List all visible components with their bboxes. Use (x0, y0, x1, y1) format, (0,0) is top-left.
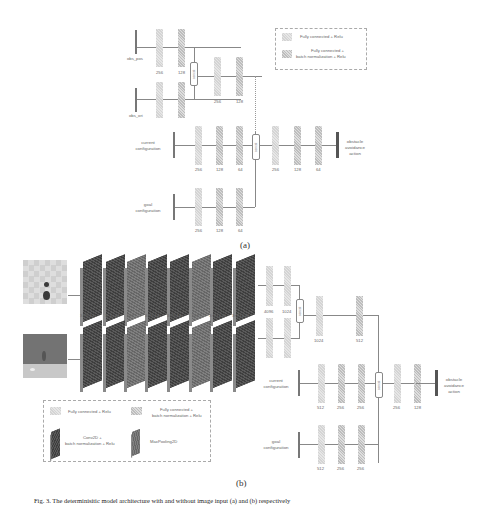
fc-layer (195, 126, 202, 165)
fc-bn-layer (338, 364, 345, 403)
conv-label: 3×3×128 (232, 314, 249, 319)
fc-bn-layer (178, 29, 185, 67)
fc-layer (316, 296, 323, 336)
concat-block-b2: concat (375, 372, 383, 398)
units-label: 128 (294, 168, 301, 173)
output-label-a2: avoidance (342, 145, 368, 150)
units-label: 64 (238, 229, 243, 234)
units-label: 128 (216, 229, 223, 234)
conv-label: 2×2 (192, 314, 199, 319)
current-config-label-b1: current (258, 378, 294, 383)
fc-bn-layer (236, 188, 243, 226)
output-label-b2: avoidance (440, 383, 468, 388)
connector (258, 285, 300, 286)
connector (175, 207, 255, 208)
fc-bn-layer (216, 188, 223, 226)
connector (258, 338, 300, 339)
units-label: 256 (357, 467, 364, 472)
fc-layer (156, 29, 163, 67)
conv-layer (167, 328, 191, 392)
connector (416, 383, 435, 384)
fc-layer (214, 57, 221, 96)
output-bar-a (336, 132, 339, 158)
fc-layer (266, 266, 273, 306)
units-label: 256 (337, 406, 344, 411)
fc-layer (284, 266, 291, 306)
units-label: 128 (216, 168, 223, 173)
obs-ori-input-bar (135, 88, 137, 112)
connector (137, 47, 241, 48)
conv-label: 3×3×32 (105, 314, 119, 319)
fc-bn-layer (294, 126, 301, 165)
conv-label: 3×3×128 (209, 314, 226, 319)
conv-layer (145, 328, 169, 392)
connector (255, 76, 256, 132)
conv-label: 3×3×64 (145, 314, 159, 319)
conv-layer (210, 328, 234, 392)
units-label: 512 (356, 339, 363, 344)
concat-block-a2: concat (252, 134, 260, 160)
connector (303, 315, 379, 316)
fc-bn-layer (358, 364, 365, 403)
output-label-a1: obstacle (342, 139, 368, 144)
robot-blob (30, 368, 35, 371)
fc-layer (394, 364, 401, 403)
fc-layer (156, 82, 163, 118)
units-label: 256 (272, 168, 279, 173)
legend-maxpool-swatch (131, 432, 135, 442)
fc-layer (272, 126, 279, 165)
fc-layer (195, 188, 202, 226)
fc-bn-layer (358, 425, 365, 464)
subfigure-label-b: (b) (236, 478, 247, 488)
current-config-label-a2: configuration (130, 146, 166, 151)
legend-conv-label-2: batch normalization + Relu (65, 442, 115, 447)
units-label: 4096 (264, 310, 273, 315)
fc-layer (318, 364, 325, 403)
current-config-label-a1: current (130, 140, 166, 145)
output-label-b1: obstacle (440, 377, 468, 382)
legend-fc-bn-swatch (282, 50, 292, 58)
units-label: 64 (238, 168, 243, 173)
legend-maxpool-label: MaxPooling2D (150, 440, 177, 445)
obs-pos-label: obs_pos (127, 57, 143, 62)
units-label: 256 (337, 467, 344, 472)
concat-block-b1: concat (296, 299, 304, 323)
legend-fc-bn-label-2: batch normalization + Relu (296, 55, 346, 60)
legend-fc-bn-label-b2: batch normalization + Relu (152, 414, 202, 419)
fc-bn-layer (216, 126, 223, 165)
units-label: 256 (195, 229, 202, 234)
fc-bn-layer (178, 82, 185, 118)
goal-config-label-b1: goal (258, 439, 294, 444)
connector (175, 145, 255, 146)
fc-bn-layer (315, 126, 322, 165)
units-label: 512 (317, 467, 324, 472)
goal-config-label-b2: configuration (258, 445, 294, 450)
subfigure-label-a: (a) (240, 240, 250, 250)
fc-bn-layer (236, 126, 243, 165)
units-label: 1024 (314, 339, 323, 344)
units-label: 256 (357, 406, 364, 411)
conv-layer (80, 328, 104, 392)
goal-config-input-bar-b (298, 432, 300, 458)
legend-conv-swatch (50, 432, 55, 444)
conv-label: 3×3×32 (80, 314, 94, 319)
output-label-a3: action (342, 151, 368, 156)
units-label: 256 (393, 406, 400, 411)
fc-layer (284, 318, 291, 358)
conv-label: 3×3×64 (167, 314, 181, 319)
obs-ori-label: obs_ori (129, 114, 143, 119)
fc-layer (318, 425, 325, 464)
connector (243, 76, 255, 77)
figure-caption: Fig. 3. The determinisitic model archite… (34, 497, 290, 504)
units-label: 128 (414, 406, 421, 411)
concat-block-a1: concat (190, 62, 198, 86)
output-bar-b (435, 370, 438, 396)
units-label: 128 (178, 71, 185, 76)
legend-fc-relu-label-b: Fully connected + Relu (68, 410, 111, 415)
fc-layer (266, 318, 273, 358)
legend-fc-relu-swatch-b (50, 407, 61, 415)
connector (68, 295, 80, 296)
legend-fc-bn-swatch-b (131, 407, 142, 415)
connector (68, 359, 80, 360)
fc-bn-layer (236, 57, 243, 96)
